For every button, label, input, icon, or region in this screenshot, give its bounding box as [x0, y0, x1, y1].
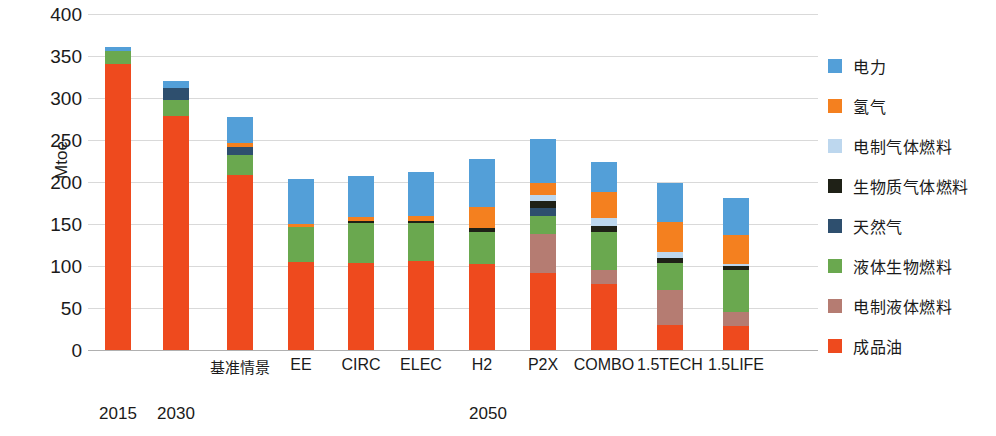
legend-item-4[interactable]: 天然气 [828, 206, 994, 246]
bar-segment [105, 64, 131, 350]
bar-segment [530, 201, 556, 208]
bar-P2X[interactable] [530, 14, 556, 350]
bar-基准情景[interactable] [227, 14, 253, 350]
chart-legend: 电力氢气电制气体燃料生物质气体燃料天然气液体生物燃料电制液体燃料成品油 [828, 46, 994, 366]
x-axis-group-2050: 2050 [469, 404, 507, 424]
x-axis-label-EE: EE [290, 356, 311, 374]
bar-segment [288, 179, 314, 224]
bar-segment [723, 235, 749, 264]
y-axis-tick: 200 [24, 173, 82, 192]
gridline [88, 182, 818, 183]
bar-segment [657, 263, 683, 290]
legend-item-7[interactable]: 成品油 [828, 326, 994, 366]
legend-item-5[interactable]: 液体生物燃料 [828, 246, 994, 286]
bar-segment [163, 81, 189, 88]
bar-segment [163, 88, 189, 100]
bar-segment [227, 155, 253, 175]
bar-segment [469, 264, 495, 350]
x-axis-line [88, 350, 818, 351]
legend-swatch-icon [828, 59, 842, 73]
x-axis-group-labels: 201520302050 [88, 404, 818, 434]
x-axis-label-基准情景: 基准情景 [210, 356, 270, 377]
legend-label: 成品油 [853, 334, 903, 358]
legend-item-6[interactable]: 电制液体燃料 [828, 286, 994, 326]
bar-segment [408, 261, 434, 350]
gridline [88, 266, 818, 267]
legend-item-2[interactable]: 电制气体燃料 [828, 126, 994, 166]
bar-segment [469, 207, 495, 228]
legend-item-3[interactable]: 生物质气体燃料 [828, 166, 994, 206]
bar-segment [227, 117, 253, 144]
bar-2030[interactable] [163, 14, 189, 350]
y-axis-tick: 0 [24, 341, 82, 360]
y-axis-tick: 150 [24, 215, 82, 234]
legend-label: 电制气体燃料 [853, 134, 952, 158]
legend-label: 电力 [853, 54, 886, 78]
y-axis-tick: 50 [24, 299, 82, 318]
bar-segment [723, 312, 749, 326]
y-axis-tick: 300 [24, 89, 82, 108]
bar-segment [591, 270, 617, 284]
x-axis-label-1.5LIFE: 1.5LIFE [708, 356, 764, 374]
bar-segment [657, 222, 683, 251]
bar-segment [530, 273, 556, 350]
y-axis-tick-labels: 050100150200250300350400 [22, 0, 82, 436]
bar-segment [657, 183, 683, 222]
bar-segment [288, 262, 314, 350]
bar-segment [530, 234, 556, 273]
bar-segment [348, 176, 374, 217]
legend-swatch-icon [828, 179, 842, 193]
bar-segment [530, 216, 556, 234]
bar-segment [105, 51, 131, 64]
bar-segment [227, 175, 253, 350]
legend-swatch-icon [828, 99, 842, 113]
legend-label: 氢气 [853, 94, 886, 118]
gridline [88, 308, 818, 309]
x-axis-label-CIRC: CIRC [341, 356, 380, 374]
bar-segment [591, 226, 617, 233]
bar-1.5LIFE[interactable] [723, 14, 749, 350]
legend-swatch-icon [828, 259, 842, 273]
bar-EE[interactable] [288, 14, 314, 350]
gridline [88, 140, 818, 141]
legend-swatch-icon [828, 219, 842, 233]
legend-item-0[interactable]: 电力 [828, 46, 994, 86]
x-axis-label-P2X: P2X [528, 356, 558, 374]
legend-swatch-icon [828, 299, 842, 313]
y-axis-tick: 350 [24, 47, 82, 66]
legend-label: 液体生物燃料 [853, 254, 952, 278]
bar-segment [530, 195, 556, 202]
bar-segment [591, 232, 617, 270]
legend-item-1[interactable]: 氢气 [828, 86, 994, 126]
legend-swatch-icon [828, 339, 842, 353]
legend-label: 天然气 [853, 214, 903, 238]
bar-CIRC[interactable] [348, 14, 374, 350]
bar-segment [723, 198, 749, 235]
bar-COMBO[interactable] [591, 14, 617, 350]
gridline [88, 14, 818, 15]
y-axis-tick: 400 [24, 5, 82, 24]
bar-segment [163, 116, 189, 350]
bar-segment [469, 159, 495, 207]
y-axis-tick: 250 [24, 131, 82, 150]
bar-segment [591, 218, 617, 226]
bar-ELEC[interactable] [408, 14, 434, 350]
bar-segment [723, 326, 749, 350]
x-axis-labels: 基准情景EECIRCELECH2P2XCOMBO1.5TECH1.5LIFE [88, 356, 818, 386]
bar-H2[interactable] [469, 14, 495, 350]
x-axis-label-ELEC: ELEC [400, 356, 442, 374]
bar-segment [591, 284, 617, 350]
bar-segment [657, 325, 683, 350]
bar-segment [227, 147, 253, 155]
legend-swatch-icon [828, 139, 842, 153]
bar-1.5TECH[interactable] [657, 14, 683, 350]
plot-area [88, 14, 818, 350]
x-axis-group-2015: 2015 [99, 404, 137, 424]
bar-segment [348, 263, 374, 350]
gridline [88, 224, 818, 225]
gridline [88, 56, 818, 57]
bar-segment [591, 162, 617, 192]
bar-segment [591, 192, 617, 218]
bar-segment [530, 208, 556, 216]
bar-2015[interactable] [105, 14, 131, 350]
